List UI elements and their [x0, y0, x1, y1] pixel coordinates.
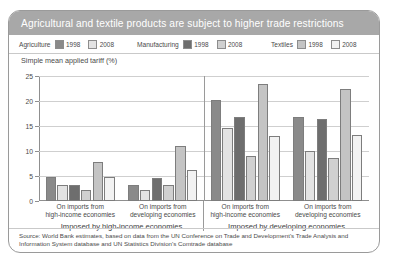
- legend-item-label: 2008: [100, 41, 114, 48]
- y-tick: [35, 201, 39, 202]
- panel-separator: [204, 76, 205, 201]
- y-tick-label: 20: [25, 98, 33, 105]
- bar: [269, 136, 280, 201]
- bar: [234, 117, 245, 201]
- bar: [293, 117, 304, 201]
- legend-item-label: 1998: [309, 41, 323, 48]
- legend-group-manufacturing: Manufacturing19982008: [137, 40, 250, 49]
- bar: [163, 185, 174, 201]
- bar: [246, 156, 257, 201]
- y-tick: [35, 176, 39, 177]
- y-tick: [35, 76, 39, 77]
- legend-group-textiles: Textiles19982008: [271, 40, 364, 49]
- bar: [69, 185, 80, 202]
- bar: [81, 190, 92, 202]
- x-axis-label: On imports fromhigh-income economies: [39, 203, 122, 220]
- legend-swatch-icon: [55, 40, 64, 49]
- bar: [352, 135, 363, 202]
- bar: [317, 119, 328, 202]
- legend-swatch-icon: [217, 40, 226, 49]
- source-note: Source: World Bank estimates, based on d…: [19, 232, 369, 248]
- source-note-box: Source: World Bank estimates, based on d…: [9, 228, 379, 252]
- x-axis-label: On imports fromhigh-income economies: [204, 203, 287, 220]
- legend-swatch-icon: [88, 40, 97, 49]
- x-axis-label-line: developing economies: [122, 211, 205, 219]
- x-axis-label-line: On imports from: [122, 203, 205, 211]
- page-title: Agricultural and textile products are su…: [9, 18, 344, 29]
- figure-card: Agricultural and textile products are su…: [8, 10, 380, 253]
- legend-group-name: Agriculture: [19, 41, 51, 48]
- bar: [305, 151, 316, 201]
- x-axis-label-line: high-income economies: [204, 211, 287, 219]
- bar: [104, 177, 115, 201]
- bar: [152, 178, 163, 201]
- x-axis-label-line: On imports from: [204, 203, 287, 211]
- y-tick: [35, 151, 39, 152]
- y-tick-label: 10: [25, 148, 33, 155]
- bar: [46, 177, 57, 201]
- bar: [57, 185, 68, 201]
- legend-group-name: Textiles: [271, 41, 293, 48]
- bar: [175, 146, 186, 201]
- bar: [258, 84, 269, 202]
- figure-title-bar: Agricultural and textile products are su…: [9, 11, 379, 35]
- bar: [211, 100, 222, 202]
- y-tick-label: 25: [25, 73, 33, 80]
- x-axis-label-line: On imports from: [39, 203, 122, 211]
- x-axis-label: On imports fromdeveloping economies: [122, 203, 205, 220]
- y-tick-label: 0: [29, 198, 33, 205]
- legend-group-name: Manufacturing: [137, 41, 179, 48]
- bar: [222, 128, 233, 201]
- x-axis-label-line: On imports from: [287, 203, 370, 211]
- legend-swatch-icon: [331, 40, 340, 49]
- legend-item-label: 2008: [228, 41, 242, 48]
- y-axis-line: [39, 76, 40, 201]
- plot-area: 0510152025: [39, 76, 369, 201]
- legend-item-label: 1998: [66, 41, 80, 48]
- legend-item-label: 2008: [342, 41, 356, 48]
- chart-legend: Agriculture19982008Manufacturing19982008…: [9, 35, 379, 54]
- x-axis-label: On imports fromdeveloping economies: [287, 203, 370, 220]
- y-tick-label: 15: [25, 123, 33, 130]
- x-axis-label-line: high-income economies: [39, 211, 122, 219]
- legend-swatch-icon: [297, 40, 306, 49]
- y-tick: [35, 101, 39, 102]
- bar: [187, 170, 198, 202]
- legend-group-agriculture: Agriculture19982008: [19, 40, 122, 49]
- y-tick: [35, 126, 39, 127]
- bar: [340, 89, 351, 202]
- legend-item-label: 1998: [194, 41, 208, 48]
- bar: [93, 162, 104, 202]
- y-axis-title: Simple mean applied tariff (%): [21, 56, 117, 65]
- bar: [128, 185, 139, 202]
- bar: [328, 158, 339, 202]
- bar: [140, 190, 151, 202]
- x-axis-label-line: developing economies: [287, 211, 370, 219]
- y-tick-label: 5: [29, 173, 33, 180]
- x-axis-labels: On imports fromhigh-income economiesOn i…: [39, 203, 369, 223]
- legend-swatch-icon: [183, 40, 192, 49]
